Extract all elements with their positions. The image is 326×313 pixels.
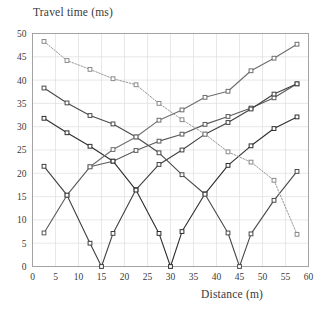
- data-point-marker: [157, 139, 161, 143]
- data-point-marker: [272, 178, 276, 182]
- x-tick-label: 55: [281, 272, 291, 282]
- data-point-marker: [88, 67, 92, 71]
- data-point-marker: [295, 82, 299, 86]
- data-point-marker: [42, 231, 46, 235]
- data-point-marker: [180, 230, 184, 234]
- data-point-marker: [134, 188, 138, 192]
- y-tick-label: 40: [17, 76, 27, 86]
- data-point-marker: [272, 92, 276, 96]
- plot-canvas: 051015202530354045505560 051015202530354…: [0, 0, 326, 313]
- data-point-marker: [42, 86, 46, 90]
- data-point-marker: [226, 231, 230, 235]
- data-point-marker: [157, 102, 161, 106]
- x-tick-label: 30: [166, 272, 176, 282]
- data-point-marker: [65, 101, 69, 105]
- data-point-marker: [295, 232, 299, 236]
- data-point-marker: [203, 95, 207, 99]
- y-tick-label: 30: [17, 122, 27, 132]
- data-point-marker: [65, 193, 69, 197]
- data-point-marker: [65, 131, 69, 135]
- y-tick-label: 5: [22, 239, 27, 249]
- data-point-marker: [169, 265, 173, 269]
- data-point-marker: [249, 144, 253, 148]
- y-tick-label: 35: [17, 99, 27, 109]
- y-axis-title: Travel time (ms): [33, 6, 113, 18]
- x-tick-label: 15: [97, 272, 107, 282]
- data-point-marker: [157, 163, 161, 167]
- data-point-marker: [111, 232, 115, 236]
- y-tick-label: 15: [17, 192, 27, 202]
- data-point-marker: [111, 148, 115, 152]
- x-tick-label: 5: [53, 272, 58, 282]
- data-point-marker: [88, 144, 92, 148]
- data-point-marker: [180, 132, 184, 136]
- data-point-marker: [226, 163, 230, 167]
- data-point-marker: [134, 135, 138, 139]
- x-axis-title: Distance (m): [201, 288, 263, 300]
- data-point-marker: [100, 265, 104, 269]
- data-point-marker: [272, 56, 276, 60]
- data-point-marker: [111, 159, 115, 163]
- data-point-marker: [272, 127, 276, 131]
- data-point-marker: [203, 122, 207, 126]
- data-point-marker: [111, 77, 115, 81]
- y-tick-label: 0: [22, 262, 27, 272]
- data-point-marker: [180, 118, 184, 122]
- data-point-marker: [249, 107, 253, 111]
- data-point-marker: [65, 59, 69, 63]
- x-tick-labels: 051015202530354045505560: [30, 272, 313, 282]
- data-point-marker: [88, 165, 92, 169]
- y-tick-label: 10: [17, 215, 27, 225]
- data-point-marker: [249, 160, 253, 164]
- y-tick-label: 20: [17, 169, 27, 179]
- data-point-marker: [134, 83, 138, 87]
- x-tick-label: 25: [143, 272, 153, 282]
- data-point-marker: [226, 150, 230, 154]
- data-point-marker: [88, 241, 92, 245]
- x-tick-label: 35: [189, 272, 199, 282]
- data-point-marker: [134, 149, 138, 153]
- data-point-marker: [226, 121, 230, 125]
- data-point-marker: [157, 232, 161, 236]
- data-point-marker: [42, 116, 46, 120]
- data-point-marker: [180, 108, 184, 112]
- y-tick-label: 50: [17, 29, 27, 39]
- x-tick-label: 60: [304, 272, 314, 282]
- data-point-marker: [249, 232, 253, 236]
- gridlines: [33, 34, 309, 267]
- data-point-marker: [88, 114, 92, 118]
- data-point-marker: [42, 40, 46, 44]
- data-point-marker: [180, 148, 184, 152]
- data-point-marker: [272, 96, 276, 100]
- data-point-marker: [111, 122, 115, 126]
- data-point-marker: [203, 132, 207, 136]
- data-point-marker: [295, 170, 299, 174]
- x-tick-label: 50: [258, 272, 268, 282]
- x-tick-label: 0: [30, 272, 35, 282]
- data-point-marker: [238, 265, 242, 269]
- x-tick-label: 45: [235, 272, 245, 282]
- y-tick-labels: 05101520253035404550: [17, 29, 27, 272]
- data-point-marker: [180, 173, 184, 177]
- x-tick-label: 10: [74, 272, 84, 282]
- data-point-marker: [226, 115, 230, 119]
- data-point-marker: [42, 164, 46, 168]
- data-point-marker: [272, 198, 276, 202]
- data-point-marker: [203, 192, 207, 196]
- data-point-marker: [157, 151, 161, 155]
- data-point-marker: [226, 89, 230, 93]
- x-tick-label: 40: [212, 272, 222, 282]
- travel-time-chart: Travel time (ms) Distance (m) 0510152025…: [0, 0, 326, 313]
- x-tick-label: 20: [120, 272, 130, 282]
- data-point-marker: [157, 118, 161, 122]
- data-point-marker: [295, 115, 299, 119]
- y-tick-label: 25: [17, 145, 27, 155]
- data-point-marker: [249, 69, 253, 73]
- y-tick-label: 45: [17, 52, 27, 62]
- data-point-marker: [295, 42, 299, 46]
